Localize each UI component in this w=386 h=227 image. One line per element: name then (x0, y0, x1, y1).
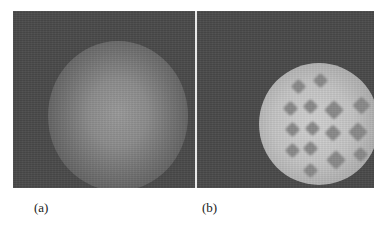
panel-a-image (13, 11, 195, 188)
noise-overlay (13, 11, 195, 188)
noise-overlay (197, 11, 374, 188)
panel-a-label: (a) (34, 200, 48, 216)
panel-b-image (197, 11, 374, 188)
panel-b-label: (b) (202, 200, 217, 216)
